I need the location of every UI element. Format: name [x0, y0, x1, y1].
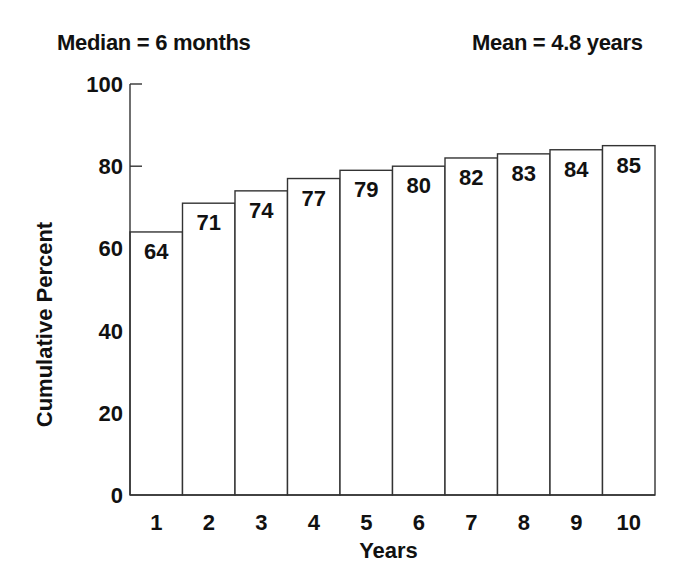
bar-value-label: 71: [197, 210, 221, 235]
bar-year-4: [288, 179, 341, 495]
bar-year-6: [393, 166, 446, 495]
bars-group: [130, 146, 655, 495]
bar-value-label: 83: [512, 161, 536, 186]
x-tick-label: 1: [150, 510, 162, 535]
bar-value-label: 82: [459, 165, 483, 190]
bar-value-label: 77: [302, 186, 326, 211]
x-tick-label: 5: [360, 510, 372, 535]
bar-year-2: [183, 203, 236, 495]
bar-value-label: 79: [354, 177, 378, 202]
y-tick-label: 60: [99, 236, 123, 261]
bar-value-label: 64: [144, 239, 169, 264]
y-tick-label: 100: [86, 72, 123, 97]
x-tick-label: 10: [617, 510, 641, 535]
bar-value-label: 74: [249, 198, 274, 223]
x-tick-label: 9: [570, 510, 582, 535]
bar-chart: 6417127437747958068278388498510020406080…: [0, 0, 700, 585]
y-axis-title: Cumulative Percent: [32, 221, 57, 427]
bar-year-7: [445, 158, 498, 495]
x-tick-label: 7: [465, 510, 477, 535]
bar-year-9: [550, 150, 603, 495]
bar-year-5: [340, 170, 393, 495]
bar-year-8: [498, 154, 551, 495]
y-tick-label: 20: [99, 401, 123, 426]
bar-year-1: [130, 232, 183, 495]
bar-year-3: [235, 191, 288, 495]
x-tick-label: 6: [413, 510, 425, 535]
x-tick-label: 4: [308, 510, 321, 535]
x-axis-title: Years: [359, 538, 418, 563]
x-tick-label: 8: [518, 510, 530, 535]
y-tick-label: 40: [99, 319, 123, 344]
bar-value-label: 80: [407, 173, 431, 198]
bar-value-label: 84: [564, 157, 589, 182]
x-tick-label: 2: [203, 510, 215, 535]
bar-year-10: [603, 146, 656, 495]
x-tick-label: 3: [255, 510, 267, 535]
bar-value-label: 85: [617, 153, 641, 178]
y-tick-label: 80: [99, 154, 123, 179]
y-tick-label: 0: [111, 483, 123, 508]
